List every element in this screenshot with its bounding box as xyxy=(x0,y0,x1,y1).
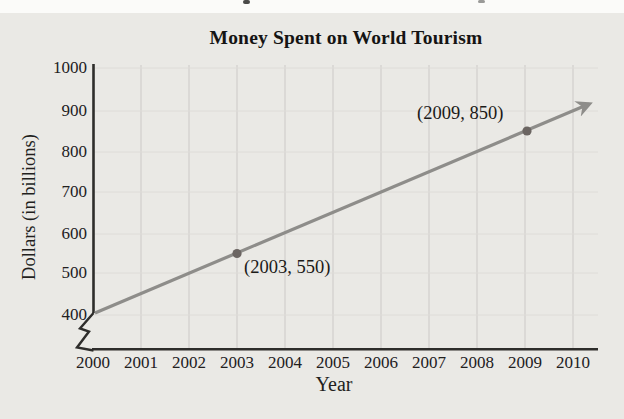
x-tick-label: 2003 xyxy=(211,353,263,373)
y-tick-label: 700 xyxy=(33,182,87,202)
horizontal-gridlines xyxy=(94,68,598,315)
x-tick-label: 2008 xyxy=(451,353,503,373)
x-tick-label: 2009 xyxy=(499,353,551,373)
x-tick-label: 2005 xyxy=(307,353,359,373)
x-tick-label: 2007 xyxy=(403,353,455,373)
x-tick-label: 2004 xyxy=(259,353,311,373)
trend-line xyxy=(95,104,589,313)
scanned-chart-page: Money Spent on World Tourism Dollars (in… xyxy=(0,0,624,419)
x-tick-label: 2000 xyxy=(67,353,119,373)
y-tick-label: 400 xyxy=(33,305,87,325)
point-annotation-2003: (2003, 550) xyxy=(244,257,330,278)
y-tick-label: 1000 xyxy=(33,58,87,78)
data-point-2009 xyxy=(522,126,531,135)
y-tick-label: 500 xyxy=(33,263,87,283)
y-tick-label: 600 xyxy=(33,224,87,244)
x-tick-label: 2002 xyxy=(163,353,215,373)
y-tick-label: 800 xyxy=(33,142,87,162)
data-point-2003 xyxy=(232,249,241,258)
x-tick-label: 2010 xyxy=(547,353,599,373)
vertical-gridlines xyxy=(141,65,573,348)
x-tick-label: 2001 xyxy=(115,353,167,373)
y-tick-label: 900 xyxy=(33,101,87,121)
x-tick-label: 2006 xyxy=(355,353,407,373)
point-annotation-2009: (2009, 850) xyxy=(417,103,503,124)
